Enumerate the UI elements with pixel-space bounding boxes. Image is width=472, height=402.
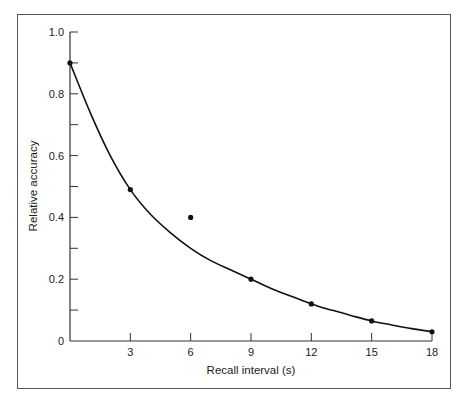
y-tick-label: 0.4 (49, 211, 64, 223)
data-point (128, 187, 133, 192)
data-point (429, 329, 434, 334)
axes: 00.20.40.60.81.0369121518 (49, 26, 438, 358)
data-point (369, 318, 374, 323)
data-point (188, 215, 193, 220)
y-tick-label: 1.0 (49, 26, 64, 38)
y-tick-label: 0.8 (49, 88, 64, 100)
x-tick-label: 12 (305, 346, 317, 358)
x-tick-label: 6 (188, 346, 194, 358)
x-tick-label: 3 (127, 346, 133, 358)
y-tick-label: 0.2 (49, 273, 64, 285)
x-axis-label: Recall interval (s) (207, 364, 296, 376)
y-axis-label: Relative accuracy (27, 140, 39, 231)
data-points (67, 60, 434, 334)
x-tick-label: 9 (248, 346, 254, 358)
data-point (309, 301, 314, 306)
chart: 00.20.40.60.81.0369121518 Recall interva… (0, 0, 472, 402)
x-tick-label: 18 (426, 346, 438, 358)
x-tick-label: 15 (366, 346, 378, 358)
y-tick-label: 0 (58, 335, 64, 347)
curve-path (70, 63, 432, 332)
data-point (248, 277, 253, 282)
y-tick-label: 0.6 (49, 150, 64, 162)
fitted-curve (70, 63, 432, 332)
data-point (67, 60, 72, 65)
